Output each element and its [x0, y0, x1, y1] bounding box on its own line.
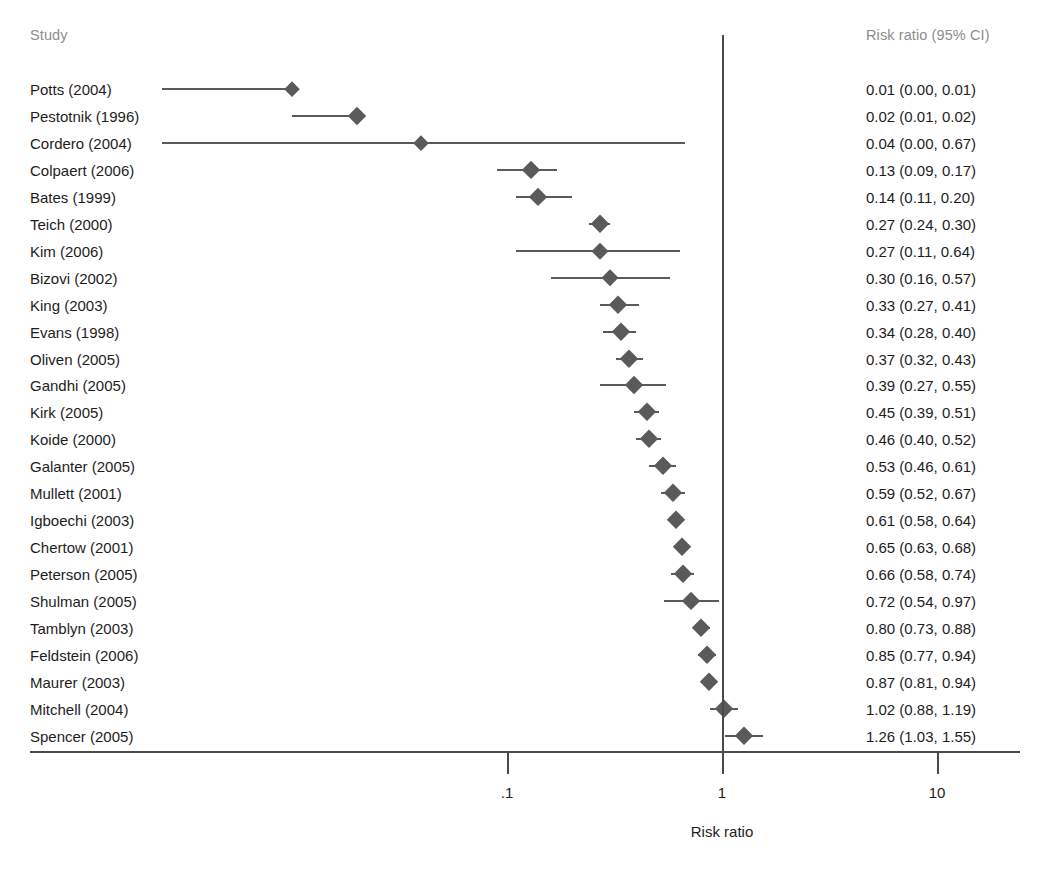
estimate-label: 0.02 (0.01, 0.02): [866, 109, 976, 124]
point-estimate-marker: [734, 726, 753, 745]
forest-plot: Study Risk ratio (95% CI) Potts (2004)0.…: [0, 0, 1042, 881]
study-label: Kirk (2005): [30, 405, 103, 420]
x-axis-tick-label: 1: [718, 784, 726, 801]
point-estimate-marker: [284, 81, 299, 96]
estimate-label: 0.04 (0.00, 0.67): [866, 136, 976, 151]
x-axis-tick-label: 10: [929, 784, 946, 801]
point-estimate-marker: [612, 322, 631, 341]
point-estimate-marker: [697, 646, 716, 665]
point-estimate-marker: [609, 295, 628, 314]
study-label: King (2003): [30, 298, 108, 313]
point-estimate-marker: [692, 619, 711, 638]
estimate-label: 0.14 (0.11, 0.20): [866, 190, 975, 205]
point-estimate-marker: [672, 538, 691, 557]
x-axis-tick-label: .1: [501, 784, 514, 801]
x-axis-tick: [507, 752, 509, 774]
estimate-label: 0.01 (0.00, 0.01): [866, 82, 976, 97]
point-estimate-marker: [666, 511, 685, 530]
study-label: Feldstein (2006): [30, 648, 138, 663]
point-estimate-marker: [620, 349, 639, 368]
study-label: Shulman (2005): [30, 594, 137, 609]
estimate-label: 0.27 (0.24, 0.30): [866, 217, 976, 232]
estimate-label: 0.13 (0.09, 0.17): [866, 163, 976, 178]
x-axis-tick: [937, 752, 939, 774]
estimate-label: 0.80 (0.73, 0.88): [866, 621, 976, 636]
study-label: Teich (2000): [30, 217, 113, 232]
study-label: Evans (1998): [30, 325, 119, 340]
estimate-label: 0.61 (0.58, 0.64): [866, 513, 976, 528]
point-estimate-marker: [638, 403, 657, 422]
point-estimate-marker: [522, 161, 541, 180]
study-label: Tamblyn (2003): [30, 621, 133, 636]
estimate-label: 0.72 (0.54, 0.97): [866, 594, 976, 609]
x-axis-title: Risk ratio: [691, 823, 754, 840]
point-estimate-marker: [653, 457, 672, 476]
null-reference-line: [722, 35, 724, 751]
study-label: Potts (2004): [30, 82, 112, 97]
estimate-label: 0.33 (0.27, 0.41): [866, 298, 976, 313]
study-label: Gandhi (2005): [30, 378, 126, 393]
estimate-label: 0.39 (0.27, 0.55): [866, 378, 976, 393]
estimate-label: 0.45 (0.39, 0.51): [866, 405, 976, 420]
column-header-estimate: Risk ratio (95% CI): [866, 27, 990, 43]
estimate-label: 1.26 (1.03, 1.55): [866, 729, 976, 744]
study-label: Spencer (2005): [30, 729, 133, 744]
x-axis-tick: [722, 752, 724, 774]
study-label: Koide (2000): [30, 432, 116, 447]
point-estimate-marker: [529, 187, 548, 206]
study-label: Cordero (2004): [30, 136, 132, 151]
estimate-label: 0.46 (0.40, 0.52): [866, 432, 976, 447]
estimate-label: 0.30 (0.16, 0.57): [866, 271, 976, 286]
study-label: Galanter (2005): [30, 459, 135, 474]
study-label: Igboechi (2003): [30, 513, 134, 528]
study-label: Mitchell (2004): [30, 702, 128, 717]
estimate-label: 0.53 (0.46, 0.61): [866, 459, 976, 474]
point-estimate-marker: [590, 214, 609, 233]
estimate-label: 0.59 (0.52, 0.67): [866, 486, 976, 501]
estimate-label: 0.34 (0.28, 0.40): [866, 325, 976, 340]
study-label: Bizovi (2002): [30, 271, 118, 286]
estimate-label: 1.02 (0.88, 1.19): [866, 702, 976, 717]
estimate-label: 0.66 (0.58, 0.74): [866, 567, 976, 582]
x-axis-line: [30, 751, 1020, 753]
study-label: Kim (2006): [30, 244, 103, 259]
point-estimate-marker: [592, 243, 608, 259]
estimate-label: 0.37 (0.32, 0.43): [866, 352, 976, 367]
point-estimate-marker: [714, 699, 733, 718]
point-estimate-marker: [682, 592, 701, 611]
point-estimate-marker: [700, 672, 719, 691]
point-estimate-marker: [414, 135, 429, 150]
point-estimate-marker: [625, 376, 643, 394]
study-label: Maurer (2003): [30, 675, 125, 690]
study-label: Bates (1999): [30, 190, 116, 205]
estimate-label: 0.27 (0.11, 0.64): [866, 244, 975, 259]
study-label: Mullett (2001): [30, 486, 122, 501]
study-label: Chertow (2001): [30, 540, 133, 555]
estimate-label: 0.87 (0.81, 0.94): [866, 675, 976, 690]
point-estimate-marker: [674, 565, 693, 584]
estimate-label: 0.65 (0.63, 0.68): [866, 540, 976, 555]
study-label: Peterson (2005): [30, 567, 138, 582]
study-label: Oliven (2005): [30, 352, 120, 367]
point-estimate-marker: [663, 484, 682, 503]
study-label: Pestotnik (1996): [30, 109, 139, 124]
point-estimate-marker: [640, 430, 659, 449]
estimate-label: 0.85 (0.77, 0.94): [866, 648, 976, 663]
confidence-interval-line: [162, 88, 292, 90]
column-header-study: Study: [30, 27, 68, 43]
point-estimate-marker: [601, 269, 618, 286]
study-label: Colpaert (2006): [30, 163, 134, 178]
point-estimate-marker: [348, 107, 366, 125]
